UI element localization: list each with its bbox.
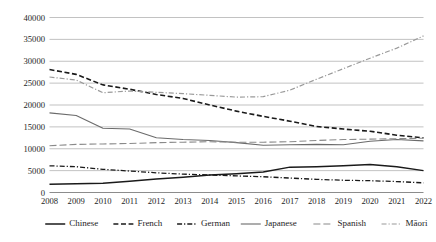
legend-label-māori[interactable]: Māori	[406, 218, 428, 228]
series-lines	[50, 36, 424, 184]
y-axis-tick-label: 10000	[24, 144, 45, 154]
x-axis-tick-label: 2014	[201, 196, 219, 206]
series-line-japanese	[50, 113, 424, 145]
chart-legend: ChineseFrenchGermanJapaneseSpanishMāori	[45, 218, 428, 228]
x-axis-tick-label: 2018	[308, 196, 325, 206]
y-axis-tick-label: 15000	[24, 122, 45, 132]
x-axis-tick-label: 2009	[68, 196, 85, 206]
chart-canvas: 0500010000150002000025000300003500040000…	[0, 0, 436, 242]
legend-label-chinese[interactable]: Chinese	[69, 218, 98, 228]
line-chart: 0500010000150002000025000300003500040000…	[0, 0, 436, 242]
y-axis-tick-labels: 0500010000150002000025000300003500040000	[24, 13, 45, 198]
y-axis-tick-label: 20000	[24, 100, 45, 110]
legend-label-german[interactable]: German	[201, 218, 230, 228]
x-axis-tick-label: 2021	[388, 196, 405, 206]
y-axis-tick-label: 5000	[28, 166, 45, 176]
x-axis-tick-label: 2019	[335, 196, 352, 206]
series-line-māori	[50, 36, 424, 97]
legend-label-spanish[interactable]: Spanish	[337, 218, 366, 228]
y-axis-tick-label: 35000	[24, 34, 45, 44]
x-axis-tick-label: 2017	[281, 196, 299, 206]
x-axis-tick-label: 2015	[228, 196, 245, 206]
x-axis-tick-labels: 2008200920102011201220132014201520162017…	[41, 196, 432, 206]
x-axis-tick-label: 2012	[148, 196, 165, 206]
x-axis-tick-label: 2011	[121, 196, 138, 206]
x-axis-tick-label: 2016	[255, 196, 273, 206]
y-axis-tick-label: 25000	[24, 78, 45, 88]
y-axis-tick-label: 40000	[24, 13, 45, 23]
legend-label-japanese[interactable]: Japanese	[265, 218, 297, 228]
gridlines	[50, 18, 424, 193]
x-axis-tick-label: 2020	[361, 196, 378, 206]
x-axis-tick-label: 2013	[174, 196, 191, 206]
y-axis-tick-label: 30000	[24, 56, 45, 66]
x-axis-tick-label: 2008	[41, 196, 58, 206]
x-axis-tick-label: 2022	[415, 196, 432, 206]
series-line-french	[50, 70, 424, 138]
x-axis-tick-label: 2010	[94, 196, 111, 206]
legend-label-french[interactable]: French	[137, 218, 162, 228]
